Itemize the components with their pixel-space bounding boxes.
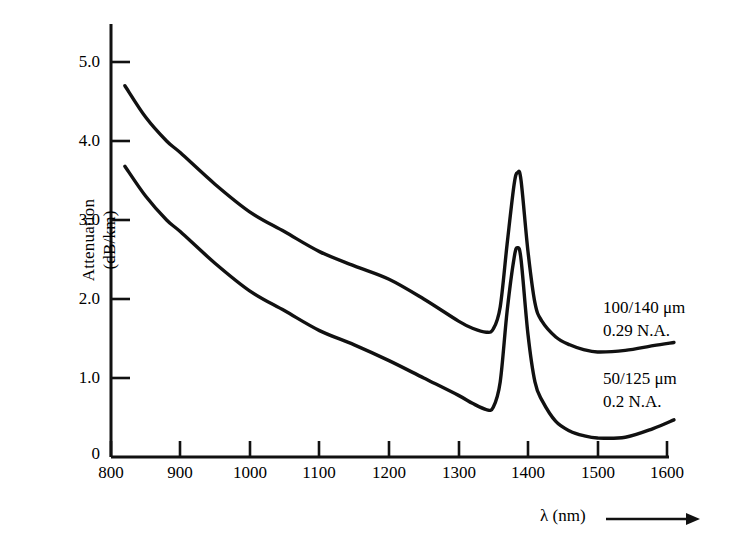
series-label-100-140um-line2: 0.29 N.A. — [603, 320, 685, 343]
curve-100-140um — [125, 86, 674, 352]
attenuation-vs-wavelength-chart: Attenuation (dB/km) 5.0 4.0 3.0 2.0 1.0 … — [0, 0, 729, 545]
y-tick-label-1: 1.0 — [58, 368, 100, 388]
x-tick-label-1400: 1400 — [493, 463, 563, 483]
series-label-50-125um-line1: 50/125 μm — [603, 368, 677, 391]
x-axis-title: λ (nm) — [540, 506, 586, 526]
x-tick-label-1300: 1300 — [424, 463, 494, 483]
series-label-50-125um-line2: 0.2 N.A. — [603, 391, 677, 414]
x-axis-title-arrow-icon — [606, 513, 700, 525]
y-axis-title-line2: (dB/km) — [99, 211, 120, 270]
x-ticks — [111, 441, 667, 457]
y-tick-label-3: 3.0 — [58, 210, 100, 230]
x-tick-label-1500: 1500 — [563, 463, 633, 483]
series-label-100-140um-line1: 100/140 μm — [603, 297, 685, 320]
series-label-100-140um: 100/140 μm 0.29 N.A. — [603, 297, 685, 343]
x-tick-label-1000: 1000 — [215, 463, 285, 483]
x-tick-label-900: 900 — [150, 463, 210, 483]
y-tick-label-5: 5.0 — [58, 52, 100, 72]
data-curves — [125, 86, 674, 439]
y-tick-label-2: 2.0 — [58, 289, 100, 309]
x-tick-label-1100: 1100 — [284, 463, 354, 483]
x-tick-label-1200: 1200 — [354, 463, 424, 483]
x-tick-label-800: 800 — [81, 463, 141, 483]
y-tick-label-0: 0 — [58, 444, 100, 464]
curve-50-125um — [125, 166, 674, 438]
series-label-50-125um: 50/125 μm 0.2 N.A. — [603, 368, 677, 414]
x-tick-label-1600: 1600 — [632, 463, 702, 483]
y-tick-label-4: 4.0 — [58, 131, 100, 151]
